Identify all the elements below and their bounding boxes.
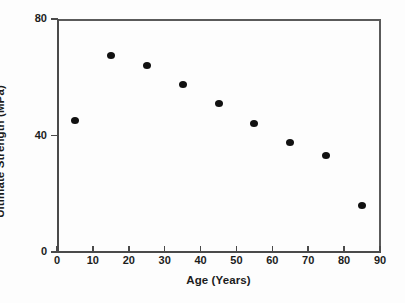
data-point (322, 152, 330, 159)
x-axis-tick-label: 0 (42, 254, 72, 266)
plot-data-area (57, 19, 380, 252)
scatter-chart-figure: Ultimate Strength (MPa) 04080 0102030405… (0, 0, 405, 303)
y-axis-title: Ultimate Strength (MPa) (0, 0, 40, 303)
y-axis-tick-label: 80 (13, 12, 47, 24)
data-point (107, 52, 115, 59)
x-axis-tick-label: 60 (257, 254, 287, 266)
y-axis-tick-label: 40 (13, 129, 47, 141)
x-axis-tick-label: 30 (150, 254, 180, 266)
x-axis-title: Age (Years) (57, 274, 380, 286)
x-axis-tick-label: 70 (293, 254, 323, 266)
data-point (71, 117, 79, 124)
data-point (179, 81, 187, 88)
data-point (286, 139, 294, 146)
data-point (250, 120, 258, 127)
x-axis-tick-label: 40 (186, 254, 216, 266)
data-point (143, 62, 151, 69)
data-point (215, 100, 223, 107)
x-axis-tick-label: 20 (114, 254, 144, 266)
x-axis-tick-label: 90 (365, 254, 395, 266)
x-axis-tick-label: 10 (78, 254, 108, 266)
x-axis-tick-label: 80 (329, 254, 359, 266)
x-axis-tick-label: 50 (221, 254, 251, 266)
data-point (358, 202, 366, 209)
